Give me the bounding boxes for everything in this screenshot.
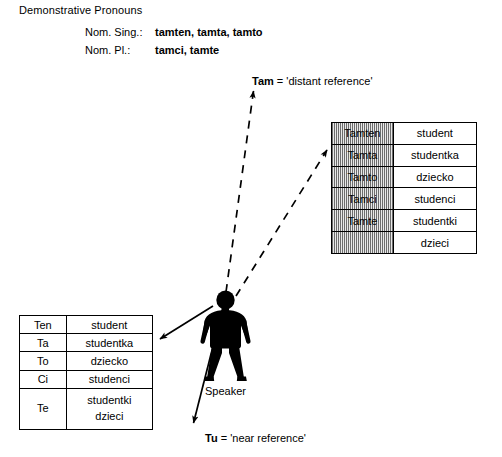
distant-reference-label: Tam = 'distant reference' [252, 75, 373, 87]
near-noun-3: studenci [66, 370, 152, 388]
table-row: Te studentki dzieci [20, 389, 152, 430]
table-row: Ta studentka [20, 334, 152, 352]
diagram-canvas: Demonstrative Pronouns Nom. Sing.: tamte… [0, 0, 502, 457]
far-pronoun-4: Tamte [332, 210, 393, 232]
near-noun-2: dziecko [66, 352, 152, 370]
table-row: Tamto dziecko [332, 166, 476, 188]
near-pronoun-1: Ta [20, 334, 66, 352]
near-noun-4: studentki dzieci [66, 389, 152, 430]
near-reference-term: Tu [205, 432, 218, 444]
table-row: Tamten student [332, 123, 476, 144]
near-reference-table: Ten student Ta studentka To dziecko Ci s… [19, 315, 153, 430]
far-noun-2: dziecko [393, 166, 476, 188]
near-reference-label: Tu = 'near reference' [205, 432, 306, 444]
near-pronoun-0: Ten [20, 316, 66, 334]
table-row: Ci studenci [20, 370, 152, 388]
far-pronoun-1: Tamta [332, 144, 393, 166]
near-pronoun-3: Ci [20, 370, 66, 388]
paradigm-label-plural: Nom. Pl.: [85, 44, 130, 56]
table-row: Tamte studentki [332, 210, 476, 232]
near-noun-4-line1: studentki [67, 393, 152, 409]
near-noun-0: student [66, 316, 152, 334]
far-pronoun-4-label: Tamte [346, 215, 378, 227]
near-noun-1: studentka [66, 334, 152, 352]
far-pronoun-5-blank [332, 232, 393, 253]
near-reference-gloss: = 'near reference' [218, 432, 306, 444]
far-pronoun-0-label: Tamten [343, 127, 381, 139]
speaker-label: Speaker [205, 385, 246, 397]
far-pronoun-1-label: Tamta [346, 149, 378, 161]
distant-reference-gloss: = 'distant reference' [274, 75, 373, 87]
far-noun-0: student [393, 123, 476, 144]
arrow-distant-label [226, 91, 254, 292]
arrow-near-table [160, 306, 213, 339]
arrow-distant-table [236, 150, 327, 296]
far-pronoun-3-label: Tamci [347, 193, 378, 205]
near-noun-4-line2: dzieci [67, 409, 152, 425]
distant-reference-table: Tamten student Tamta studentka Tamto dzi… [331, 122, 477, 254]
speaker-figure [200, 290, 250, 381]
distant-reference-term: Tam [252, 75, 274, 87]
page-title: Demonstrative Pronouns [19, 4, 142, 16]
arrow-near-label [194, 303, 225, 423]
table-row: Tamci studenci [332, 188, 476, 210]
table-row: Ten student [20, 316, 152, 334]
table-row: To dziecko [20, 352, 152, 370]
far-pronoun-0: Tamten [332, 123, 393, 144]
paradigm-value-singular: tamten, tamta, tamto [155, 26, 263, 38]
far-noun-5: dzieci [393, 232, 476, 253]
table-row: Tamta studentka [332, 144, 476, 166]
paradigm-label-singular: Nom. Sing.: [85, 26, 142, 38]
near-pronoun-4: Te [20, 389, 66, 430]
near-pronoun-2: To [20, 352, 66, 370]
table-row: dzieci [332, 232, 476, 253]
far-pronoun-2: Tamto [332, 166, 393, 188]
far-noun-3: studenci [393, 188, 476, 210]
paradigm-value-plural: tamci, tamte [155, 44, 219, 56]
far-pronoun-3: Tamci [332, 188, 393, 210]
far-pronoun-2-label: Tamto [346, 171, 378, 183]
far-noun-4: studentki [393, 210, 476, 232]
far-noun-1: studentka [393, 144, 476, 166]
